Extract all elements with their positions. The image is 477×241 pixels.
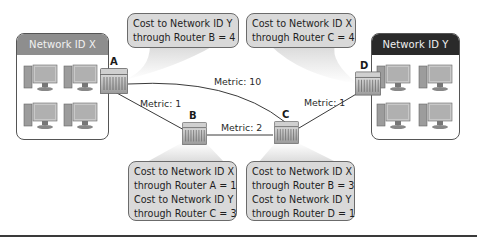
computer-icon [376,62,412,94]
cost-bubble-router-d: Cost to Network ID X through Router C = … [246,13,356,48]
network-y-title: Network ID Y [372,34,459,55]
bottom-divider [0,235,477,237]
bubble-line: through Router D = 1 [252,207,349,221]
bubble-line: through Router A = 1 [134,179,231,193]
computer-icon [376,100,412,132]
router-c-icon [273,121,300,144]
router-a-icon [100,68,128,94]
router-c-label: C [282,109,289,120]
computer-icon [23,62,59,94]
bubble-line: Cost to Network ID X [134,165,231,179]
cost-bubble-router-a: Cost to Network ID Y through Router B = … [127,13,239,48]
bubble-tail-a [124,45,215,80]
bubble-line: Cost to Network ID Y [252,193,349,207]
bubble-tail-c [258,142,338,163]
router-d-label: D [360,60,368,71]
network-x-title: Network ID X [17,34,108,55]
bubble-line: Cost to Network ID Y [134,193,231,207]
computer-icon [63,100,99,132]
metric-c-d: Metric: 1 [304,97,345,108]
router-b-icon [181,122,208,145]
network-x-box: Network ID X [16,33,109,140]
metric-b-c: Metric: 2 [221,122,262,133]
network-y-box: Network ID Y [371,33,460,140]
bubble-line: Cost to Network ID X [252,165,349,179]
bubble-line: through Router B = 3 [252,179,349,193]
cost-bubble-router-c: Cost to Network ID X through Router B = … [246,161,355,221]
bubble-tail-b [145,142,225,163]
computer-icon [23,100,59,132]
bubble-tail-d [270,45,358,84]
metric-a-b: Metric: 1 [140,98,181,109]
router-d-icon [355,71,381,96]
cost-bubble-router-b: Cost to Network ID X through Router A = … [128,161,237,221]
computer-icon [418,100,454,132]
bubble-line: Cost to Network ID X [252,17,350,31]
router-b-label: B [189,110,197,121]
computer-icon [418,62,454,94]
bubble-line: through Router C = 4 [252,31,350,45]
bubble-line: Cost to Network ID Y [133,17,233,31]
computer-icon [63,62,99,94]
bubble-line: through Router C = 3 [134,207,231,221]
bubble-line: through Router B = 4 [133,31,233,45]
metric-a-c: Metric: 10 [214,76,261,87]
router-a-label: A [110,56,118,67]
